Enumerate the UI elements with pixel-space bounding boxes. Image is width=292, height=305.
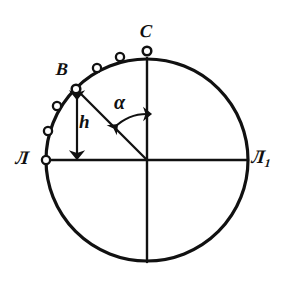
label-point-c: C xyxy=(139,22,152,40)
marker-point-3 xyxy=(93,64,101,72)
label-point-a1: Л1 xyxy=(251,147,272,166)
marker-point-A xyxy=(42,156,50,164)
circle-diagram-svg xyxy=(0,0,292,305)
marker-point-1 xyxy=(44,127,52,135)
label-point-a: Л xyxy=(15,148,30,167)
marker-point-4 xyxy=(116,53,124,61)
marker-point-C xyxy=(143,47,152,56)
marker-point-B xyxy=(72,85,81,94)
marker-point-2 xyxy=(53,102,61,110)
figure-container: Л Л1 B C α h xyxy=(0,0,292,305)
label-height-h: h xyxy=(79,112,90,131)
label-point-b: B xyxy=(55,60,68,78)
angle-alpha-arc xyxy=(115,114,148,128)
label-angle-alpha: α xyxy=(114,92,125,112)
